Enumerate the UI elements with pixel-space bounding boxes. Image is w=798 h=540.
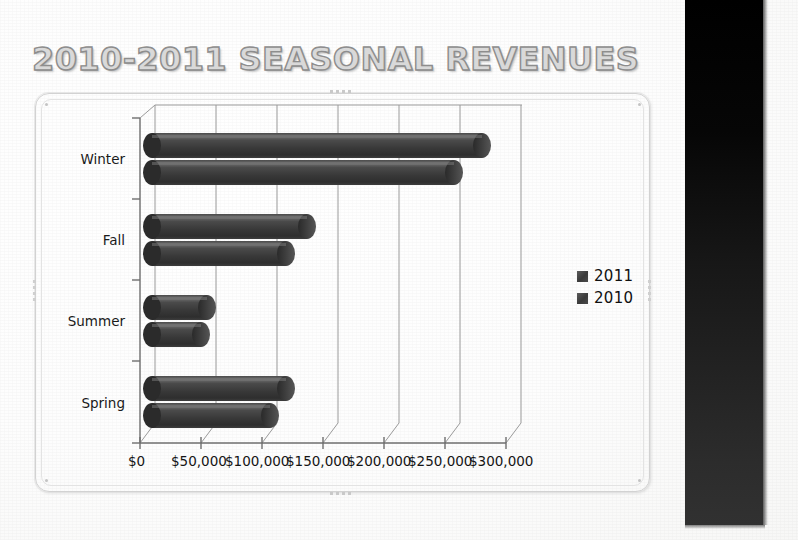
legend-swatch-icon-2010 [577,293,588,304]
legend-label-2011: 2011 [594,267,633,285]
y-tick-label-fall: Fall [39,232,125,248]
x-tick-label-200000: $200,000 [347,453,411,469]
frame-handle-right [648,280,651,302]
bar-summer-2011[interactable] [143,295,216,320]
chart-svg [35,93,648,490]
bar-spring-2011[interactable] [143,376,295,401]
chart-legend[interactable]: 2011 2010 [577,265,647,309]
legend-item-2011[interactable]: 2011 [577,265,647,287]
x-tick-label-0: $0 [128,453,145,469]
bar-winter-2011[interactable] [143,133,491,158]
x-tick-label-150000: $150,000 [286,453,350,469]
scan-dark-band-bottom-shadow [685,525,765,529]
frame-handle-bottom [330,492,354,495]
scan-dark-band [685,0,763,525]
chart-title: 2010-2011 SEASONAL REVENUES [32,40,639,78]
legend-swatch-icon-2011 [577,271,588,282]
scan-dark-band-edge [763,0,768,525]
chart-x-axis [140,437,506,449]
bar-summer-2010[interactable] [143,322,210,347]
x-tick-label-250000: $250,000 [408,453,472,469]
bar-spring-2010[interactable] [143,403,279,428]
y-tick-label-summer: Summer [39,313,125,329]
chart-plot-area[interactable]: Winter Fall Summer Spring $0 $50,000 $10… [35,93,648,490]
y-tick-label-winter: Winter [39,151,125,167]
legend-item-2010[interactable]: 2010 [577,287,647,309]
x-tick-label-50000: $50,000 [171,453,227,469]
y-tick-label-spring: Spring [39,395,125,411]
bar-fall-2010[interactable] [143,241,295,266]
x-tick-label-100000: $100,000 [225,453,289,469]
legend-label-2010: 2010 [594,289,633,307]
x-tick-label-300000: $300,000 [469,453,533,469]
chart-y-axis [132,118,140,443]
bar-winter-2010[interactable] [143,160,463,185]
bar-fall-2011[interactable] [143,214,316,239]
